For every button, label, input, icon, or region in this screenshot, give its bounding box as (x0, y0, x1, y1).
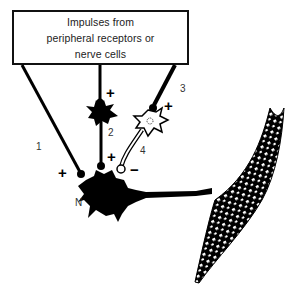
label-neuron-n: N (75, 197, 82, 208)
neural-circuit-diagram (0, 0, 296, 290)
sign-pathway-3-excitatory: + (164, 98, 173, 113)
label-pathway-3: 3 (180, 83, 186, 94)
motor-neuron (78, 170, 212, 222)
sign-pathway-1-excitatory: + (58, 165, 67, 180)
sign-pathway-2-upper-excitatory: + (106, 85, 115, 100)
muscle-fiber (195, 108, 284, 283)
inhibitory-terminal (117, 165, 125, 173)
label-pathway-4: 4 (140, 145, 146, 156)
pathway-1 (22, 65, 85, 178)
label-pathway-2: 2 (108, 127, 114, 138)
sign-pathway-4-inhibitory: − (130, 162, 139, 177)
synaptic-terminal-1 (77, 170, 85, 178)
label-pathway-1: 1 (36, 141, 42, 152)
sign-pathway-2-lower-excitatory: + (107, 149, 116, 164)
pathway-3 (117, 65, 175, 173)
